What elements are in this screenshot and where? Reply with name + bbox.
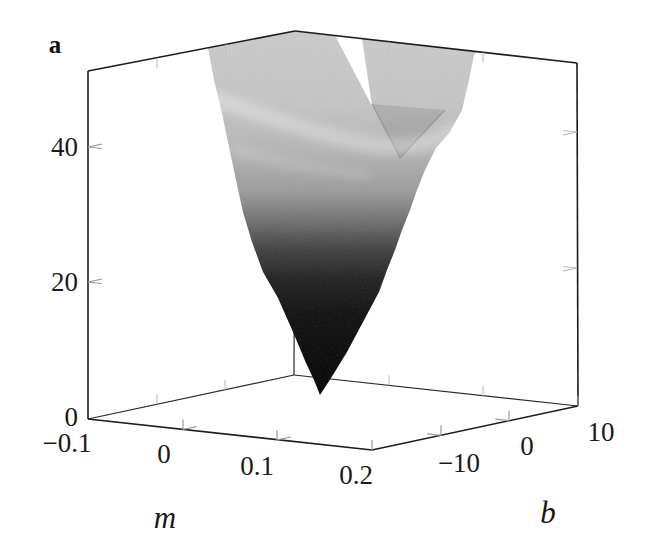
- z-tick-label-40: 40: [51, 132, 78, 162]
- m-axis: [88, 419, 372, 450]
- m-tick-label-0: 0: [157, 439, 171, 469]
- b-tick-label-m10: −10: [438, 448, 480, 478]
- z-tick-20: [88, 279, 102, 283]
- b-tick-0: [495, 411, 509, 421]
- floor-back-left-edge: [88, 375, 294, 419]
- b-axis: [372, 406, 578, 450]
- z-tick-40-right: [563, 131, 577, 135]
- b-axis-label: b: [540, 495, 556, 530]
- b-tick-label-10: 10: [588, 417, 615, 447]
- z-tick-40: [88, 144, 102, 148]
- figure-panel: a 40 20 0 −0.1 0 0.1 0.2 −10 0 10 m b: [0, 0, 647, 551]
- floor-back-right-edge: [294, 375, 578, 406]
- m-axis-label: m: [154, 500, 176, 535]
- m-tick-label-m0p1: −0.1: [43, 428, 92, 458]
- loss-surface-group: [208, 31, 477, 395]
- m-tick-label-0p1: 0.1: [240, 451, 274, 481]
- surface-grain: [208, 31, 477, 395]
- b-tick-label-0: 0: [520, 431, 534, 461]
- surface-plot-canvas: a 40 20 0 −0.1 0 0.1 0.2 −10 0 10 m b: [0, 0, 647, 551]
- b-tick-m10: [427, 425, 441, 435]
- m-tick-label-0p2: 0.2: [339, 460, 373, 490]
- z-tick-label-20: 20: [51, 267, 78, 297]
- panel-label: a: [49, 31, 62, 58]
- m-tick-0: [183, 420, 197, 430]
- m-tick-0p1: [277, 430, 291, 440]
- z-tick-20-right: [563, 267, 577, 271]
- z-axis-right: [577, 63, 578, 406]
